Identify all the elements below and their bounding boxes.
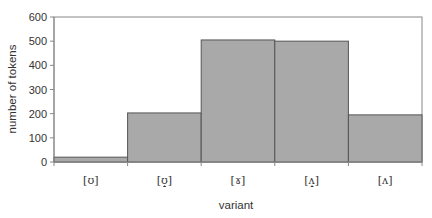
bar-2	[201, 40, 275, 162]
x-tick-label: [ʌ]	[378, 174, 393, 187]
x-tick-label: [ɤ]	[231, 174, 246, 187]
x-tick-label: [ʊ]	[83, 174, 98, 187]
bar-1	[128, 113, 202, 162]
bar-0	[54, 157, 128, 162]
bar-4	[348, 115, 422, 162]
bar-chart: 0100200300400500600 [ʊ][ʊ̝][ɤ][ʌ̝][ʌ] nu…	[0, 0, 432, 218]
plot-area	[54, 17, 422, 162]
y-tick-label: 300	[29, 84, 47, 96]
x-tick-label: [ʊ̝]	[157, 174, 172, 187]
y-tick-label: 100	[29, 132, 47, 144]
bar-3	[275, 41, 349, 162]
x-tick-label: [ʌ̝]	[304, 174, 319, 187]
y-tick-label: 200	[29, 108, 47, 120]
y-tick-label: 600	[29, 11, 47, 23]
x-axis-title: variant	[219, 199, 254, 211]
y-axis-title: number of tokens	[6, 44, 18, 133]
y-axis: 0100200300400500600	[29, 11, 54, 168]
y-tick-label: 500	[29, 35, 47, 47]
y-tick-label: 0	[41, 156, 47, 168]
y-tick-label: 400	[29, 59, 47, 71]
x-axis: [ʊ][ʊ̝][ɤ][ʌ̝][ʌ]	[54, 162, 422, 187]
